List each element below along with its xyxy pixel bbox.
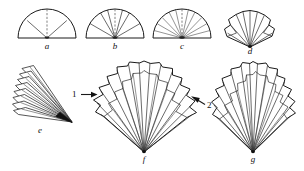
panel-f-drawing <box>94 61 197 153</box>
panel-b-drawing <box>86 9 144 39</box>
panel-caption-f: f <box>132 154 156 164</box>
panel-d-drawing <box>225 11 275 48</box>
panel-caption-b: b <box>103 41 127 51</box>
figure-canvas <box>0 0 304 171</box>
panel-e-drawing <box>13 66 73 123</box>
panel-caption-d: d <box>238 46 262 56</box>
panel-c-drawing <box>153 9 211 39</box>
panel-caption-g: g <box>241 154 265 164</box>
panel-caption-c: c <box>170 41 194 51</box>
panel-caption-a: a <box>35 41 59 51</box>
panel-g-drawing <box>212 62 296 154</box>
panel-caption-e: e <box>28 125 52 135</box>
figure-container: a b c d e f g 1 2 <box>0 0 304 171</box>
callout-label-1: 1 <box>72 89 77 99</box>
panel-a-drawing <box>18 9 76 39</box>
callout-label-2: 2 <box>207 100 212 110</box>
callout-1-arrow <box>81 92 98 98</box>
